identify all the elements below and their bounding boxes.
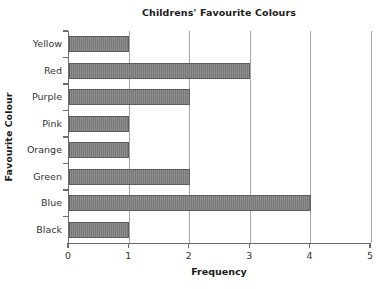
y-axis-title-text: Favourite Colour: [3, 27, 14, 247]
y-tick-label-red: Red: [44, 65, 62, 76]
x-tick-label-4: 4: [295, 250, 325, 261]
bar-yellow: [69, 36, 129, 52]
chart-title: Childrens' Favourite Colours: [68, 7, 370, 18]
y-axis-title: Favourite Colour: [0, 0, 22, 289]
x-axis-line: [68, 243, 371, 244]
bar-purple: [69, 89, 190, 105]
y-tick-label-blue: Blue: [41, 197, 62, 208]
y-tick-label-green: Green: [33, 171, 62, 182]
x-tick-0: [67, 243, 68, 248]
y-tick-1: [63, 57, 68, 58]
x-tick-2: [188, 243, 189, 248]
x-tick-1: [128, 243, 129, 248]
x-tick-5: [369, 243, 370, 248]
bar-green: [69, 169, 190, 185]
y-tick-2: [63, 83, 68, 84]
bar-chart-figure: Childrens' Favourite Colours Favourite C…: [0, 0, 388, 289]
x-tick-label-5: 5: [355, 250, 385, 261]
y-tick-label-pink: Pink: [42, 118, 62, 129]
bar-red: [69, 63, 250, 79]
x-tick-label-2: 2: [174, 250, 204, 261]
plot-area: [68, 31, 371, 243]
x-tick-label-3: 3: [234, 250, 264, 261]
y-tick-0: [63, 30, 68, 31]
y-tick-label-orange: Orange: [27, 144, 62, 155]
y-tick-label-yellow: Yellow: [33, 38, 62, 49]
y-tick-6: [63, 189, 68, 190]
x-tick-4: [309, 243, 310, 248]
y-tick-7: [63, 216, 68, 217]
bar-blue: [69, 195, 311, 211]
y-tick-5: [63, 163, 68, 164]
x-tick-3: [249, 243, 250, 248]
y-tick-label-black: Black: [36, 224, 62, 235]
x-tick-label-1: 1: [113, 250, 143, 261]
bar-black: [69, 222, 129, 238]
y-tick-label-purple: Purple: [32, 91, 62, 102]
y-tick-4: [63, 136, 68, 137]
y-tick-3: [63, 110, 68, 111]
gridline-x-5: [371, 31, 372, 243]
x-axis-title: Frequency: [68, 266, 370, 277]
bar-pink: [69, 116, 129, 132]
x-tick-label-0: 0: [53, 250, 83, 261]
bar-orange: [69, 142, 129, 158]
